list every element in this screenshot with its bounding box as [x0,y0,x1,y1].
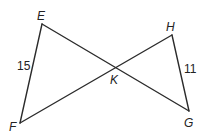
vertex-label-e: E [37,9,46,23]
segment-fh [20,35,172,123]
length-label-ef: 15 [17,59,31,73]
length-label-hg: 11 [184,62,197,76]
bowtie-diagram: E H K F G 15 11 [0,0,202,139]
vertex-label-h: H [166,20,175,34]
segment-ef [20,24,42,123]
vertex-label-k: K [110,73,119,87]
vertex-label-f: F [9,120,17,134]
vertex-label-g: G [184,116,193,130]
